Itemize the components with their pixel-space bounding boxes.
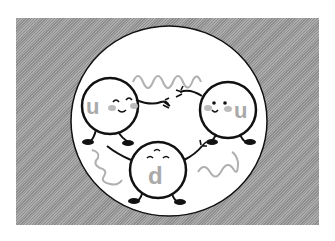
- quark-label-u-left: u: [86, 94, 99, 119]
- quark-label-d: d: [148, 162, 163, 189]
- proton-illustration: u u d: [0, 0, 335, 241]
- quark-label-u-right: u: [234, 98, 247, 123]
